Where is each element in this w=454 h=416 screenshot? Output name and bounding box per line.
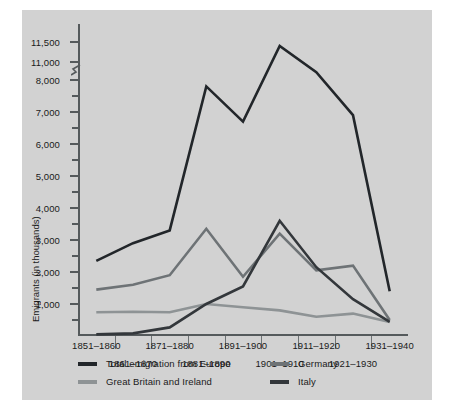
legend-row: Great Britain and Ireland Italy [78,376,418,387]
x-tick-label: 1911–1920 [292,340,340,351]
y-tick: 3,000 [70,239,78,241]
y-tick: 8,000 [70,79,78,81]
legend-label: Italy [298,376,316,387]
legend-item-germany: Germany [270,358,338,369]
chart-legend: Total emigration from Europe Germany Gre… [78,358,418,394]
legend-label: Germany [298,358,338,369]
x-tick-label: 1851–1860 [72,340,120,351]
series-lines [78,24,408,336]
legend-swatch-icon [270,362,289,366]
legend-swatch-icon [78,380,97,384]
legend-row: Total emigration from Europe Germany [78,358,418,369]
y-tick: 5,000 [70,175,78,177]
series-line [96,304,389,322]
y-tick: 2,000 [70,271,78,273]
series-line [96,46,389,291]
legend-swatch-icon [78,362,97,366]
y-tick: 11,500 [70,41,78,43]
legend-swatch-icon [270,380,289,384]
chart-figure: 11,50011,0008,0007,0006,0005,0004,0003,0… [22,10,432,400]
y-tick: 6,000 [70,143,78,145]
legend-label: Great Britain and Ireland [106,376,212,387]
y-axis-title: Emigrants (in thousands) [30,10,41,322]
legend-item-great-britain-and-ireland: Great Britain and Ireland [78,376,270,387]
legend-label: Total emigration from Europe [106,358,231,369]
y-tick: 4,000 [70,207,78,209]
y-tick: 7,000 [70,111,78,113]
plot-area: 11,50011,0008,0007,0006,0005,0004,0003,0… [78,24,408,336]
x-tick-label: 1931–1940 [365,340,413,351]
legend-item-italy: Italy [270,376,316,387]
x-tick-label: 1871–1880 [145,340,193,351]
y-tick: 1,000 [70,303,78,305]
x-tick-label: 1891–1900 [219,340,267,351]
legend-item-total-emigration-from-europe: Total emigration from Europe [78,358,270,369]
